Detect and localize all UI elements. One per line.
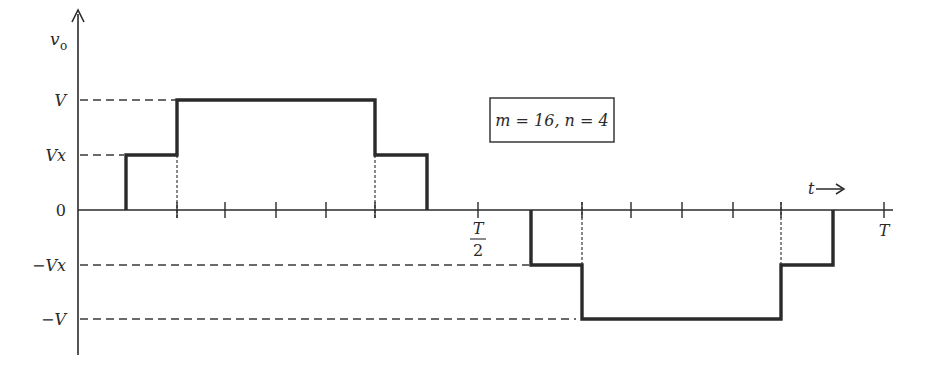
y-label-v: V — [54, 91, 67, 110]
y-label-neg-vx: −Vx — [32, 256, 66, 275]
y-label-vx: Vx — [45, 146, 66, 165]
x-label-half-period-numerator: T — [473, 219, 485, 238]
y-axis-label-subscript: o — [60, 39, 67, 53]
y-tick-labels: V Vx 0 −Vx −V — [32, 91, 67, 329]
annotation-text: m = 16, n = 4 — [495, 111, 608, 130]
x-label-half-period-denominator: 2 — [473, 241, 483, 260]
y-label-zero: 0 — [56, 201, 66, 220]
x-axis: T 2 T t — [78, 179, 893, 260]
y-axis-label: v — [50, 29, 60, 49]
y-label-neg-v: −V — [41, 310, 67, 329]
waveform-figure: v o V Vx 0 −Vx −V — [0, 0, 926, 378]
x-axis-label: t — [808, 179, 815, 198]
x-label-period: T — [879, 221, 891, 240]
y-axis: v o — [50, 10, 84, 355]
parameter-annotation: m = 16, n = 4 — [490, 98, 614, 142]
